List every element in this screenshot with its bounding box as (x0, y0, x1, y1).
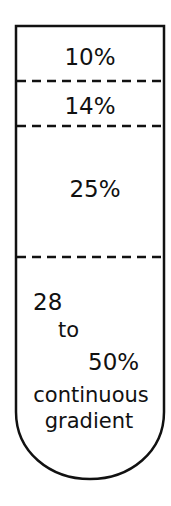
gradient-tube-diagram: 10% 14% 25% 28 to 50% continuous gradien… (0, 0, 171, 506)
gradient-label-to: to (58, 318, 79, 342)
gradient-label-start: 28 (33, 289, 62, 315)
layer-label-14: 14% (64, 93, 115, 119)
layer-label-10: 10% (64, 44, 115, 70)
gradient-label-end: 50% (88, 349, 139, 375)
layer-label-25: 25% (69, 176, 120, 202)
gradient-label-continuous: continuous (33, 383, 149, 407)
gradient-label-gradient: gradient (45, 409, 133, 433)
